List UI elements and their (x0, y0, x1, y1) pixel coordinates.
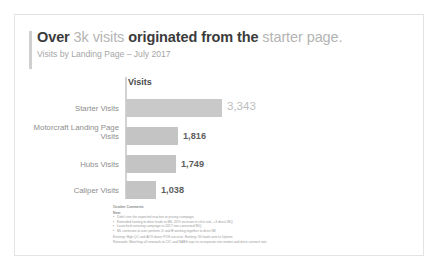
bar-row: Caliper Visits1,038 (29, 181, 415, 199)
bar-value-label: 1,816 (183, 131, 206, 141)
page-title: Over 3k visits originated from the start… (37, 29, 413, 46)
slide-card: Over 3k visits originated from the start… (14, 14, 424, 256)
title-segment: originated from the (128, 29, 262, 45)
bar-category-label: Hubs Visits (29, 160, 119, 169)
comments-list: Didn't see the expected reaction to pric… (113, 215, 409, 233)
comments-title: October Comments (113, 205, 409, 210)
title-accent-rule (29, 31, 32, 69)
bar-category-label: Starter Visits (29, 104, 119, 113)
comment-bullet: ML continues to over perform, D and B wo… (113, 229, 409, 234)
bar-row: Hubs Visits1,749 (29, 155, 415, 173)
title-segment: Over (37, 29, 74, 45)
bar-row: Motorcraft Landing Page Visits1,816 (29, 127, 415, 145)
header: Over 3k visits originated from the start… (29, 29, 413, 60)
comment-footer-line: Existing: High QC and AOV drove POS succ… (113, 235, 409, 240)
chart-column-header: Visits (128, 77, 152, 87)
bar-row: Starter Visits3,343 (29, 99, 415, 117)
bar (126, 181, 156, 199)
bar-category-label: Motorcraft Landing Page Visits (29, 123, 119, 142)
bar (126, 99, 222, 117)
bar-value-label: 1,749 (181, 159, 204, 169)
comment-footer-line: Renewals: Matching all renewals to CIC a… (113, 240, 409, 245)
title-segment: 3k visits (74, 29, 129, 45)
title-segment: starter page. (262, 29, 342, 45)
comments-footer: Existing: High QC and AOV drove POS succ… (113, 235, 409, 245)
bar-value-label: 3,343 (227, 100, 256, 112)
bar (126, 127, 178, 145)
bar (126, 155, 176, 173)
bar-value-label: 1,038 (161, 185, 184, 195)
bar-chart: Visits Starter Visits3,343Motorcraft Lan… (29, 77, 415, 199)
page-subtitle: Visits by Landing Page – July 2017 (37, 49, 413, 60)
comments-block: October Comments New: Didn't see the exp… (113, 205, 409, 245)
bar-category-label: Caliper Visits (29, 186, 119, 195)
